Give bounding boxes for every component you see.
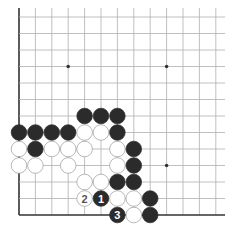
white-stone-circle <box>93 125 109 141</box>
black-stone-circle <box>142 207 158 223</box>
black-stone-circle <box>93 108 109 124</box>
white-stone-circle <box>93 174 109 190</box>
white-stone[interactable] <box>11 141 27 157</box>
black-stone-circle <box>110 174 126 190</box>
white-stone[interactable] <box>44 141 60 157</box>
black-stone-circle <box>28 141 44 157</box>
black-stone[interactable] <box>28 141 44 157</box>
white-stone-circle <box>28 158 44 174</box>
white-stone-circle <box>77 174 93 190</box>
move-number-label: 3 <box>114 209 120 221</box>
white-stone[interactable] <box>60 158 76 174</box>
white-stone-circle <box>60 158 76 174</box>
black-stone[interactable] <box>93 108 109 124</box>
black-stone[interactable] <box>110 125 126 141</box>
white-stone-circle <box>11 141 27 157</box>
move-number-label: 2 <box>82 193 88 205</box>
white-stone-circle <box>77 141 93 157</box>
white-stone[interactable] <box>110 141 126 157</box>
black-stone-circle <box>44 125 60 141</box>
white-stone[interactable] <box>77 141 93 157</box>
white-stone-circle <box>44 141 60 157</box>
black-stone-1[interactable]: 1 <box>93 191 109 207</box>
black-stone[interactable] <box>110 108 126 124</box>
black-stone[interactable] <box>11 125 27 141</box>
black-stone-circle <box>11 125 27 141</box>
white-stone-circle <box>110 191 126 207</box>
white-stone[interactable] <box>110 191 126 207</box>
black-stone[interactable] <box>77 108 93 124</box>
black-stone[interactable] <box>44 125 60 141</box>
white-stone-2[interactable]: 2 <box>77 191 93 207</box>
star-point <box>165 65 169 69</box>
black-stone-circle <box>77 108 93 124</box>
white-stone[interactable] <box>11 158 27 174</box>
white-stone[interactable] <box>93 125 109 141</box>
black-stone-circle <box>126 174 142 190</box>
white-stone[interactable] <box>126 207 142 223</box>
white-stone[interactable] <box>77 174 93 190</box>
black-stone[interactable] <box>126 141 142 157</box>
white-stone[interactable] <box>110 158 126 174</box>
white-stone[interactable] <box>77 125 93 141</box>
black-stone[interactable] <box>126 174 142 190</box>
black-stone-circle <box>110 108 126 124</box>
white-stone-circle <box>77 125 93 141</box>
star-point <box>165 164 169 168</box>
white-stone[interactable] <box>93 174 109 190</box>
white-stone[interactable] <box>60 141 76 157</box>
white-stone-circle <box>110 141 126 157</box>
black-stone[interactable] <box>142 191 158 207</box>
black-stone-circle <box>126 141 142 157</box>
black-stone[interactable] <box>142 207 158 223</box>
white-stone[interactable] <box>126 191 142 207</box>
star-point <box>66 65 70 69</box>
black-stone[interactable] <box>28 125 44 141</box>
black-stone[interactable] <box>126 158 142 174</box>
black-stone-3[interactable]: 3 <box>110 207 126 223</box>
black-stone-circle <box>28 125 44 141</box>
black-stone-circle <box>126 158 142 174</box>
black-stone-circle <box>110 125 126 141</box>
white-stone-circle <box>126 191 142 207</box>
move-number-label: 1 <box>98 193 104 205</box>
black-stone-circle <box>60 125 76 141</box>
black-stone[interactable] <box>110 174 126 190</box>
black-stone[interactable] <box>60 125 76 141</box>
white-stone[interactable] <box>28 158 44 174</box>
white-stone-circle <box>110 158 126 174</box>
white-stone-circle <box>11 158 27 174</box>
white-stone-circle <box>60 141 76 157</box>
white-stone-circle <box>126 207 142 223</box>
black-stone-circle <box>142 191 158 207</box>
go-board[interactable]: 213 <box>0 0 233 232</box>
